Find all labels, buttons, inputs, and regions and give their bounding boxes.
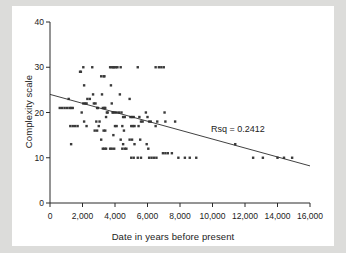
scatter-point xyxy=(154,66,156,68)
scatter-point xyxy=(83,120,85,122)
x-tick-label: 12,000 xyxy=(232,211,258,221)
y-tick-marks xyxy=(46,22,50,203)
x-tick-label: 16,000 xyxy=(297,211,323,221)
scatter-point xyxy=(162,152,164,154)
scatter-point xyxy=(138,116,140,118)
scatter-point xyxy=(95,120,97,122)
scatter-point xyxy=(146,116,148,118)
scatter-point xyxy=(92,93,94,95)
scatter-point xyxy=(120,111,122,113)
x-tick-label: 6,000 xyxy=(137,211,158,221)
axis-lines xyxy=(50,22,310,203)
regression-line xyxy=(50,94,310,165)
scatter-point xyxy=(130,157,132,159)
scatter-point xyxy=(72,125,74,127)
scatter-point xyxy=(122,143,124,145)
scatter-point xyxy=(119,138,121,140)
scatter-point xyxy=(100,75,102,77)
scatter-point xyxy=(163,66,165,68)
y-axis-title: Complexity scale xyxy=(23,32,34,192)
scatter-point xyxy=(156,120,158,122)
scatter-point xyxy=(83,84,85,86)
scatter-point xyxy=(104,129,106,131)
y-tick-label: 0 xyxy=(18,198,44,208)
scatter-point xyxy=(70,143,72,145)
scatter-point xyxy=(153,157,155,159)
scatter-point xyxy=(112,134,114,136)
scatter-point xyxy=(101,93,103,95)
scatter-point xyxy=(111,148,113,150)
scatter-point xyxy=(91,66,93,68)
scatter-point xyxy=(124,116,126,118)
scatter-point xyxy=(163,111,165,113)
x-tick-label: 2,000 xyxy=(72,211,93,221)
scatter-point xyxy=(128,98,130,100)
scatter-point xyxy=(100,138,102,140)
scatter-point xyxy=(174,120,176,122)
scatter-point xyxy=(137,125,139,127)
scatter-point xyxy=(110,84,112,86)
scatter-point xyxy=(94,102,96,104)
scatter-point xyxy=(262,157,264,159)
scatter-point xyxy=(171,152,173,154)
scatter-point xyxy=(160,66,162,68)
scatter-point xyxy=(93,129,95,131)
scatter-point xyxy=(167,152,169,154)
scatter-point xyxy=(116,66,118,68)
scatter-point xyxy=(177,157,179,159)
scatter-point xyxy=(113,148,115,150)
trend-line xyxy=(50,94,310,165)
x-tick-label: 8,000 xyxy=(169,211,190,221)
scatter-point xyxy=(82,66,84,68)
scatter-point xyxy=(89,98,91,100)
x-tick-marks xyxy=(50,203,310,207)
scatter-point xyxy=(121,125,123,127)
scatter-point xyxy=(119,66,121,68)
scatter-point xyxy=(133,143,135,145)
scatter-point xyxy=(63,107,65,109)
x-tick-label: 10,000 xyxy=(200,211,226,221)
scatter-point xyxy=(148,157,150,159)
scatter-point xyxy=(164,152,166,154)
scatter-point xyxy=(145,143,147,145)
scatter-point xyxy=(115,125,117,127)
scatter-point xyxy=(105,148,107,150)
scatter-point xyxy=(291,157,293,159)
scatter-point xyxy=(80,111,82,113)
rsq-annotation: Rsq = 0.2412 xyxy=(211,124,265,134)
scatter-point xyxy=(98,120,100,122)
scatter-point xyxy=(132,157,134,159)
scatter-point xyxy=(76,125,78,127)
scatter-point xyxy=(72,107,74,109)
scatter-point xyxy=(164,120,166,122)
scatter-point xyxy=(59,107,61,109)
scatter-point xyxy=(252,157,254,159)
scatter-point xyxy=(104,107,106,109)
scatter-point xyxy=(155,157,157,159)
scatter-point xyxy=(145,111,147,113)
y-tick-label: 40 xyxy=(18,17,44,27)
scatter-point xyxy=(150,157,152,159)
scatter-point xyxy=(128,138,130,140)
scatter-point xyxy=(125,148,127,150)
scatter-point xyxy=(139,138,141,140)
scatter-point xyxy=(106,111,108,113)
scatter-point xyxy=(158,66,160,68)
scatter-point xyxy=(111,102,113,104)
scatter-point xyxy=(137,66,139,68)
scatter-point xyxy=(140,157,142,159)
scatter-point xyxy=(154,125,156,127)
scatter-point xyxy=(141,120,143,122)
scatter-point xyxy=(103,75,105,77)
scatter-point xyxy=(133,125,135,127)
scatter-point xyxy=(66,107,68,109)
scatter-point xyxy=(147,148,149,150)
scatter-point xyxy=(98,125,100,127)
scatter-point xyxy=(80,71,82,73)
scatter-point xyxy=(86,98,88,100)
scatter-point xyxy=(85,125,87,127)
figure-container: 01020304002,0004,0006,0008,00010,00012,0… xyxy=(0,0,346,253)
scatter-point xyxy=(184,157,186,159)
scatter-point xyxy=(137,157,139,159)
x-axis-title: Date in years before present xyxy=(0,231,346,242)
